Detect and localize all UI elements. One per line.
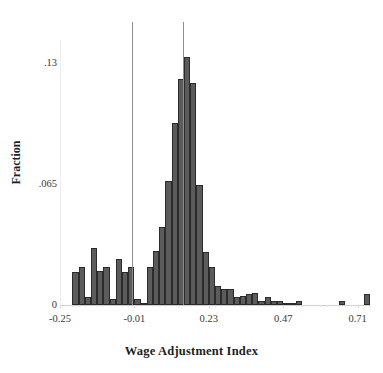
reference-line-left	[132, 22, 133, 305]
x-axis-minor-tick	[209, 305, 210, 307]
x-axis-minor-tick	[85, 305, 86, 307]
y-axis-tick-label: .13	[44, 58, 57, 69]
x-axis-minor-tick	[240, 305, 241, 307]
reference-line-right	[183, 22, 184, 305]
y-axis-tick-label: 0	[52, 300, 57, 311]
x-axis-minor-tick	[258, 305, 259, 307]
x-axis-minor-tick	[79, 305, 80, 307]
x-axis-minor-tick	[370, 305, 371, 307]
x-axis-minor-tick	[159, 305, 160, 307]
x-axis-minor-tick	[141, 305, 142, 307]
x-axis-minor-tick	[134, 305, 135, 307]
y-axis-title: Fraction	[9, 123, 24, 203]
plot-area	[60, 40, 370, 305]
x-axis-minor-tick	[184, 305, 185, 307]
x-axis-minor-tick	[283, 305, 284, 307]
x-axis-tick-label: 0.23	[200, 313, 218, 324]
x-axis-minor-tick	[190, 305, 191, 307]
x-axis-minor-tick	[333, 305, 334, 307]
x-axis-minor-tick	[314, 305, 315, 307]
x-axis-minor-tick	[289, 305, 290, 307]
x-axis-minor-tick	[302, 305, 303, 307]
x-axis-minor-tick	[110, 305, 111, 307]
x-axis-minor-tick	[345, 305, 346, 307]
x-axis-title: Wage Adjustment Index	[0, 344, 383, 359]
x-axis-minor-tick	[153, 305, 154, 307]
x-axis-minor-tick	[122, 305, 123, 307]
x-axis-minor-tick	[234, 305, 235, 307]
x-axis-minor-tick	[103, 305, 104, 307]
x-axis-minor-tick	[265, 305, 266, 307]
x-axis-minor-tick	[308, 305, 309, 307]
x-axis-minor-tick	[165, 305, 166, 307]
x-axis-minor-tick	[277, 305, 278, 307]
x-axis-minor-tick	[116, 305, 117, 307]
x-axis-minor-tick	[178, 305, 179, 307]
x-axis-minor-tick	[320, 305, 321, 307]
x-axis-minor-tick	[91, 305, 92, 307]
x-axis-minor-tick	[97, 305, 98, 307]
x-axis-minor-tick	[203, 305, 204, 307]
x-axis-minor-tick	[271, 305, 272, 307]
x-axis-minor-tick	[351, 305, 352, 307]
x-axis-minor-tick	[227, 305, 228, 307]
x-axis-minor-tick	[252, 305, 253, 307]
x-axis-minor-tick	[296, 305, 297, 307]
x-axis-minor-tick	[246, 305, 247, 307]
x-axis-minor-tick	[147, 305, 148, 307]
y-axis-tick-label: .065	[39, 179, 57, 190]
x-axis-minor-tick	[339, 305, 340, 307]
x-axis-tick-label: 0.71	[348, 313, 366, 324]
x-axis-minor-tick	[172, 305, 173, 307]
x-axis-minor-tick	[66, 305, 67, 307]
histogram-bar	[364, 294, 370, 305]
x-axis-tick-label: -0.25	[49, 313, 71, 324]
x-axis-minor-tick	[358, 305, 359, 307]
x-axis-tick-label: -0.01	[123, 313, 145, 324]
bars-container	[60, 40, 370, 305]
x-axis-minor-tick	[60, 305, 61, 307]
x-axis-minor-tick	[128, 305, 129, 307]
x-axis-minor-tick	[72, 305, 73, 307]
x-axis-tick-label: 0.47	[274, 313, 292, 324]
chart-title	[0, 0, 383, 2]
x-axis-minor-tick	[364, 305, 365, 307]
x-axis-minor-tick	[196, 305, 197, 307]
x-axis-minor-tick	[327, 305, 328, 307]
x-axis-minor-tick	[221, 305, 222, 307]
x-axis-minor-tick	[215, 305, 216, 307]
histogram-figure: 0.065.13 -0.25-0.010.230.470.71 Fraction…	[0, 0, 383, 373]
